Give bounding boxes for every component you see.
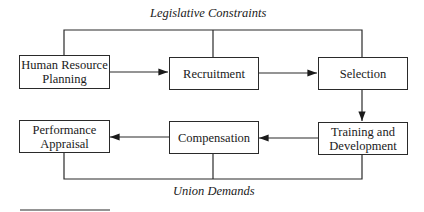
node-label: Compensation [178, 131, 250, 145]
node-label: Recruitment [183, 67, 245, 81]
node-label: Human Resource Planning [20, 58, 109, 86]
node-training-and-development: Training and Development [318, 122, 408, 155]
node-label: Training and Development [324, 125, 402, 153]
node-recruitment: Recruitment [169, 57, 259, 90]
node-label: Performance Appraisal [30, 123, 100, 151]
node-performance-appraisal: Performance Appraisal [19, 120, 110, 153]
legislative-constraints-label: Legislative Constraints [150, 6, 266, 21]
node-selection: Selection [318, 57, 408, 90]
diagram-connectors [0, 0, 424, 212]
union-demands-label: Union Demands [173, 184, 255, 199]
node-human-resource-planning: Human Resource Planning [19, 55, 110, 89]
node-compensation: Compensation [169, 121, 259, 154]
node-label: Selection [340, 67, 387, 81]
